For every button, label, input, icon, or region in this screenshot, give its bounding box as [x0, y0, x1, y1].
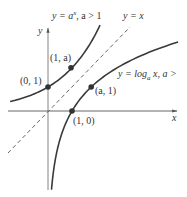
exp-label-base: y = a [51, 10, 73, 21]
log-label-base: y = log [117, 68, 147, 79]
exponential-curve [10, 25, 100, 101]
point-label-1-0: (1, 0) [73, 115, 95, 127]
point-label-a-1: (a, 1) [95, 85, 116, 97]
logarithm-exponential-graph: y x y = ax, a > 1 y = x y = loga x, a > … [0, 0, 187, 197]
exp-label-cond: , a > 1 [76, 10, 101, 21]
point-a-1 [88, 84, 94, 90]
logarithm-curve [51, 42, 178, 189]
identity-label: y = x [122, 10, 144, 21]
log-label-cond: x, a > [150, 68, 176, 79]
x-axis-label: x [171, 112, 177, 123]
point-1-a [68, 65, 74, 71]
y-axis-label: y [37, 25, 43, 36]
point-1-0 [69, 108, 75, 114]
point-label-0-1: (0, 1) [20, 75, 42, 87]
point-label-1-a: (1, a) [50, 52, 71, 64]
exponential-label: y = ax, a > 1 [51, 9, 101, 21]
point-0-1 [45, 84, 51, 90]
logarithm-label: y = loga x, a > [117, 68, 177, 82]
